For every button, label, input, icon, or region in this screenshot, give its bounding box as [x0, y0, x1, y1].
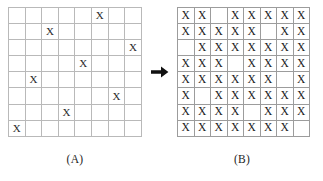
panel-b: XXXXXXXXXXXXXXXXXXXXXXXXXXXXXXXXXXXXXXXX… [167, 0, 317, 181]
grid-cell-empty [42, 88, 59, 104]
grid-cell-marked: X [178, 72, 195, 88]
x-mark: X [264, 41, 272, 53]
x-mark: X [198, 25, 206, 37]
x-mark: X [198, 106, 206, 118]
grid-cell-marked: X [277, 121, 294, 137]
grid-cell-marked: X [244, 56, 261, 72]
grid-cell-empty [9, 72, 26, 88]
grid-cell-marked: X [195, 105, 212, 121]
x-mark: X [79, 58, 87, 69]
grid-cell-empty [26, 88, 43, 104]
x-mark: X [264, 90, 272, 102]
x-mark: X [198, 9, 206, 21]
x-mark: X [248, 122, 256, 134]
grid-cell-marked: X [294, 72, 311, 88]
grid-cell-marked: X [195, 121, 212, 137]
grid-cell-empty [75, 105, 92, 121]
x-mark: X [248, 74, 256, 86]
grid-cell-empty [109, 121, 126, 137]
x-mark: X [297, 25, 305, 37]
x-mark: X [231, 25, 239, 37]
x-mark: X [281, 90, 289, 102]
grid-cell-empty [109, 56, 126, 72]
grid-cell-empty [9, 24, 26, 40]
x-mark: X [215, 25, 223, 37]
x-mark: X [182, 74, 190, 86]
x-mark: X [281, 122, 289, 134]
x-mark: X [198, 122, 206, 134]
x-mark: X [248, 41, 256, 53]
x-mark: X [13, 122, 21, 133]
grid-cell-empty [9, 56, 26, 72]
grid-cell-marked: X [211, 24, 228, 40]
grid-cell-marked: X [42, 24, 59, 40]
grid-cell-empty [42, 121, 59, 137]
grid-cell-marked: X [211, 40, 228, 56]
x-mark: X [231, 41, 239, 53]
grid-b: XXXXXXXXXXXXXXXXXXXXXXXXXXXXXXXXXXXXXXXX… [177, 7, 310, 137]
grid-cell-marked: X [125, 40, 142, 56]
figure-root: XXXXXXXX (A) XXXXXXXXXXXXXXXXXXXXXXXXXXX… [0, 0, 323, 181]
grid-cell-marked: X [228, 88, 245, 104]
grid-cell-marked: X [109, 88, 126, 104]
grid-cell-marked: X [211, 121, 228, 137]
grid-cell-empty [125, 88, 142, 104]
grid-cell-marked: X [178, 24, 195, 40]
grid-cell-empty [92, 88, 109, 104]
x-mark: X [182, 90, 190, 102]
x-mark: X [281, 106, 289, 118]
x-mark: X [96, 10, 104, 21]
grid-cell-empty [125, 24, 142, 40]
grid-cell-marked: X [294, 105, 311, 121]
x-mark: X [281, 41, 289, 53]
grid-cell-empty [109, 72, 126, 88]
grid-cell-empty [42, 105, 59, 121]
x-mark: X [231, 106, 239, 118]
grid-cell-marked: X [178, 121, 195, 137]
x-mark: X [281, 25, 289, 37]
x-mark: X [182, 58, 190, 70]
grid-cell-empty [178, 40, 195, 56]
grid-cell-marked: X [228, 40, 245, 56]
grid-cell-marked: X [277, 40, 294, 56]
grid-cell-empty [125, 56, 142, 72]
grid-a: XXXXXXXX [8, 7, 142, 137]
grid-cell-marked: X [244, 8, 261, 24]
x-mark: X [63, 106, 71, 117]
grid-cell-empty [92, 24, 109, 40]
grid-cell-marked: X [228, 105, 245, 121]
x-mark: X [215, 106, 223, 118]
grid-cell-marked: X [261, 72, 278, 88]
x-mark: X [198, 58, 206, 70]
grid-cell-marked: X [244, 72, 261, 88]
grid-cell-empty [26, 105, 43, 121]
x-mark: X [198, 74, 206, 86]
grid-cell-marked: X [244, 121, 261, 137]
grid-cell-empty [26, 24, 43, 40]
grid-cell-marked: X [277, 24, 294, 40]
grid-cell-marked: X [92, 8, 109, 24]
x-mark: X [215, 74, 223, 86]
grid-cell-empty [9, 8, 26, 24]
grid-cell-empty [42, 56, 59, 72]
x-mark: X [231, 122, 239, 134]
x-mark: X [182, 122, 190, 134]
grid-cell-marked: X [26, 72, 43, 88]
grid-cell-marked: X [228, 121, 245, 137]
grid-cell-marked: X [277, 8, 294, 24]
x-mark: X [297, 58, 305, 70]
grid-cell-marked: X [277, 105, 294, 121]
grid-cell-empty [228, 56, 245, 72]
grid-a-wrapper: XXXXXXXX [8, 7, 142, 137]
grid-cell-marked: X [261, 8, 278, 24]
x-mark: X [182, 25, 190, 37]
grid-cell-empty [9, 40, 26, 56]
grid-cell-marked: X [277, 88, 294, 104]
grid-cell-empty [42, 40, 59, 56]
grid-cell-empty [42, 8, 59, 24]
grid-cell-marked: X [244, 40, 261, 56]
grid-cell-empty [109, 8, 126, 24]
panel-a-caption: (A) [0, 153, 150, 165]
grid-cell-marked: X [294, 40, 311, 56]
grid-cell-empty [75, 121, 92, 137]
